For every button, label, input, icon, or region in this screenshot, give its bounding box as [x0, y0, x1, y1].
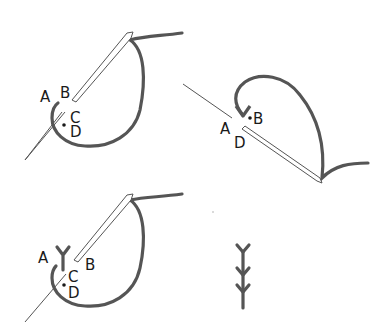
panel-step-1: A B C D: [25, 32, 182, 160]
panel-result: [237, 245, 249, 308]
label-a: A: [220, 120, 231, 138]
stitch-diagram: A B C D A B D A B C D: [0, 0, 378, 334]
needle-tip: [183, 84, 232, 118]
label-d: D: [68, 284, 80, 302]
label-d: D: [70, 123, 82, 141]
needle: [72, 32, 133, 102]
label-b: B: [85, 256, 95, 274]
needle: [242, 126, 322, 183]
label-a: A: [38, 249, 49, 267]
point-dot: [62, 123, 66, 127]
arrow-head-icon: [236, 106, 250, 116]
speck: [212, 211, 214, 213]
panel-step-3: A B C D: [25, 194, 182, 322]
label-b: B: [60, 84, 70, 102]
label-d: D: [234, 134, 246, 152]
label-a: A: [40, 88, 51, 106]
needle: [74, 194, 133, 262]
point-dot: [248, 116, 252, 120]
panel-step-2: A B D: [183, 76, 368, 183]
needle-tip: [25, 274, 66, 322]
y-stitch-mark: [57, 247, 69, 270]
point-dot: [62, 283, 66, 287]
label-b: B: [253, 110, 263, 128]
